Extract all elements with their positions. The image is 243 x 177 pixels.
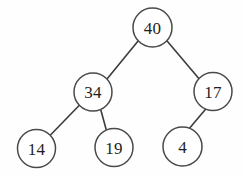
node-label-17: 17 — [204, 83, 222, 102]
tree-canvas: 40341714194 — [0, 0, 243, 177]
tree-edge-n34-n14 — [50, 105, 80, 136]
tree-node-17: 17 — [194, 73, 232, 111]
tree-node-40: 40 — [133, 8, 172, 47]
node-label-4: 4 — [178, 138, 187, 157]
tree-node-34: 34 — [74, 73, 112, 111]
tree-edge-n40-n17 — [167, 41, 199, 79]
tree-edge-n34-n19 — [101, 110, 106, 129]
tree-edges-group — [50, 41, 206, 136]
tree-node-14: 14 — [18, 130, 56, 168]
node-label-19: 19 — [105, 139, 122, 158]
tree-edge-n17-n4 — [190, 109, 206, 128]
tree-edge-n40-n34 — [107, 41, 138, 79]
node-label-40: 40 — [144, 19, 161, 38]
node-label-34: 34 — [84, 83, 102, 102]
binary-tree-figure: 40341714194 — [0, 0, 243, 177]
tree-node-19: 19 — [95, 129, 133, 167]
tree-nodes-group: 40341714194 — [18, 8, 233, 168]
tree-node-4: 4 — [163, 127, 202, 166]
node-label-14: 14 — [28, 140, 46, 159]
